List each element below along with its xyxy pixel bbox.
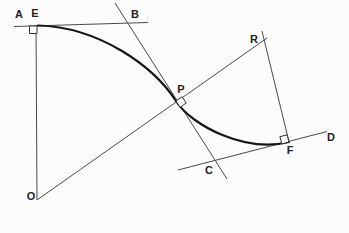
label-B: B bbox=[131, 8, 139, 20]
line-vertical-EO bbox=[36, 26, 37, 201]
label-O: O bbox=[27, 190, 36, 202]
label-E: E bbox=[31, 7, 38, 19]
label-A: A bbox=[15, 8, 23, 20]
right-angle-marker-P bbox=[176, 97, 186, 108]
line-tangent-BPC bbox=[115, 3, 227, 179]
geometry-diagram: AEBRPCDFO bbox=[0, 0, 349, 233]
label-F: F bbox=[287, 144, 294, 156]
label-R: R bbox=[250, 33, 258, 45]
label-D: D bbox=[327, 131, 335, 143]
line-normal-RF bbox=[262, 31, 289, 142]
right-angle-marker-E bbox=[30, 26, 38, 34]
figure-canvas: AEBRPCDFO bbox=[0, 0, 349, 233]
line-normal-OPR bbox=[37, 38, 267, 200]
right-angle-marker-F bbox=[280, 135, 289, 144]
label-C: C bbox=[205, 164, 213, 176]
label-P: P bbox=[177, 83, 184, 95]
